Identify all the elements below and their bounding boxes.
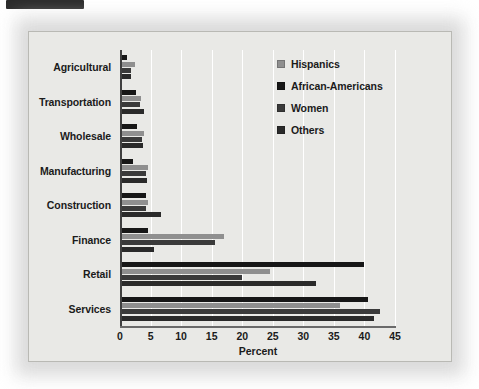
bar xyxy=(120,193,146,198)
bar xyxy=(120,90,136,95)
x-axis-title: Percent xyxy=(120,345,396,357)
y-axis-label: Finance xyxy=(72,234,111,246)
bar xyxy=(120,124,137,129)
bar xyxy=(120,143,143,148)
legend-item: Hispanics xyxy=(277,54,383,73)
legend-swatch-icon xyxy=(277,60,285,68)
bar xyxy=(120,62,135,67)
legend-swatch-icon xyxy=(277,104,285,112)
plot: AgriculturalTransportationWholesaleManuf… xyxy=(29,32,453,363)
bar xyxy=(120,240,215,245)
gridline xyxy=(395,50,396,326)
chart-legend: HispanicsAfrican-AmericansWomenOthers xyxy=(277,54,383,142)
bar xyxy=(120,269,270,274)
y-axis-label: Retail xyxy=(83,268,111,280)
bar xyxy=(120,281,316,286)
x-tick-label: 25 xyxy=(267,330,279,342)
bar xyxy=(120,234,224,239)
x-tick-label: 15 xyxy=(206,330,218,342)
x-axis-tick-labels: 051015202530354045 xyxy=(29,330,453,346)
y-axis-category-labels: AgriculturalTransportationWholesaleManuf… xyxy=(29,50,115,326)
bar xyxy=(120,275,242,280)
y-axis-label: Construction xyxy=(47,199,111,211)
x-tick-label: 5 xyxy=(148,330,154,342)
y-axis-label: Manufacturing xyxy=(40,165,111,177)
bar-group xyxy=(120,223,395,258)
bar xyxy=(120,212,161,217)
screenshot-root: AgriculturalTransportationWholesaleManuf… xyxy=(0,0,479,389)
bar xyxy=(120,171,146,176)
legend-item: Others xyxy=(277,120,383,139)
bar xyxy=(120,178,147,183)
legend-label: Hispanics xyxy=(291,58,340,70)
legend-label: African-Americans xyxy=(291,80,383,92)
bar xyxy=(120,131,144,136)
chart-figure: AgriculturalTransportationWholesaleManuf… xyxy=(28,31,452,362)
x-tick-label: 45 xyxy=(389,330,401,342)
x-tick-label: 40 xyxy=(359,330,371,342)
bar xyxy=(120,228,148,233)
legend-label: Others xyxy=(291,124,324,136)
y-axis-label: Wholesale xyxy=(60,130,111,142)
x-tick-label: 10 xyxy=(175,330,187,342)
bar xyxy=(120,247,154,252)
bar xyxy=(120,109,144,114)
y-axis-label: Transportation xyxy=(39,96,111,108)
legend-swatch-icon xyxy=(277,126,285,134)
legend-swatch-icon xyxy=(277,82,285,90)
bar-group xyxy=(120,188,395,223)
x-axis-line xyxy=(120,326,396,328)
bar xyxy=(120,200,148,205)
legend-item: Women xyxy=(277,98,383,117)
bar xyxy=(120,303,340,308)
y-axis-label: Agricultural xyxy=(53,61,111,73)
page-edge-artifact xyxy=(6,0,84,9)
legend-item: African-Americans xyxy=(277,76,383,95)
bar xyxy=(120,96,141,101)
y-axis-label: Services xyxy=(69,303,111,315)
bar xyxy=(120,102,140,107)
bar xyxy=(120,159,133,164)
bar xyxy=(120,297,368,302)
bar-group xyxy=(120,292,395,327)
x-tick-label: 35 xyxy=(328,330,340,342)
bar xyxy=(120,309,380,314)
x-tick-label: 30 xyxy=(297,330,309,342)
bar xyxy=(120,165,148,170)
bar xyxy=(120,262,364,267)
bar-group xyxy=(120,257,395,292)
x-tick-label: 0 xyxy=(117,330,123,342)
bar xyxy=(120,206,146,211)
bar xyxy=(120,316,374,321)
bar xyxy=(120,137,142,142)
bar-group xyxy=(120,154,395,189)
y-axis-line xyxy=(120,50,122,326)
legend-label: Women xyxy=(291,102,328,114)
x-tick-label: 20 xyxy=(236,330,248,342)
